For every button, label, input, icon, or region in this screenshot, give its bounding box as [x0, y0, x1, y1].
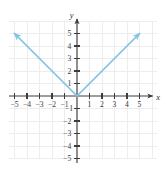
y-axis-label: y	[69, 11, 74, 20]
x-axis-label: x	[155, 93, 160, 102]
y-tick-label-neg5: −5	[63, 154, 71, 163]
y-tick-label-pos4: 4	[67, 42, 71, 51]
x-tick-label-neg5: −5	[10, 100, 18, 109]
x-tick-label-pos2: 2	[100, 100, 104, 109]
absolute-value-graph-figure: −5 −4 −3 −2 −1 1 2 3 4 5 5 4 3 2 1 −1 −2…	[0, 0, 165, 170]
y-tick-label-pos3: 3	[67, 54, 71, 63]
x-tick-label-pos4: 4	[125, 100, 129, 109]
coordinate-plane: −5 −4 −3 −2 −1 1 2 3 4 5 5 4 3 2 1 −1 −2…	[0, 0, 165, 170]
x-tick-label-neg3: −3	[35, 100, 43, 109]
plot-background	[0, 0, 165, 170]
y-tick-label-neg3: −3	[63, 129, 71, 138]
y-tick-label-neg4: −4	[63, 142, 71, 151]
x-tick-label-pos3: 3	[113, 100, 117, 109]
x-tick-label-neg4: −4	[23, 100, 31, 109]
y-tick-label-pos5: 5	[67, 29, 71, 38]
x-tick-label-pos5: 5	[138, 100, 142, 109]
x-tick-label-neg2: −2	[48, 100, 56, 109]
y-tick-label-pos2: 2	[67, 67, 71, 76]
y-tick-label-pos1: 1	[67, 79, 71, 88]
y-tick-label-neg2: −2	[63, 117, 71, 126]
x-tick-label-pos1: 1	[88, 100, 92, 109]
y-tick-label-neg1: −1	[65, 104, 73, 113]
